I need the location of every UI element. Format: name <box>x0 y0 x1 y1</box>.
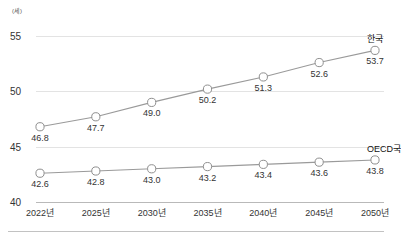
point-value-label: 49.0 <box>143 108 161 118</box>
data-point-marker <box>92 167 100 175</box>
gridline-55 <box>36 36 384 37</box>
gridline-45 <box>36 147 384 148</box>
point-value-label: 43.8 <box>366 166 384 176</box>
y-tick-label-50: 50 <box>10 86 34 97</box>
point-value-label: 43.6 <box>310 168 328 178</box>
x-tick-label-0: 2022년 <box>26 206 54 219</box>
point-value-label: 51.3 <box>255 83 273 93</box>
x-tick-label-6: 2050년 <box>361 206 389 219</box>
data-point-marker <box>371 46 379 54</box>
point-value-label: 50.2 <box>199 95 217 105</box>
point-value-label: 47.7 <box>87 123 105 133</box>
x-tick-label-4: 2040년 <box>249 206 277 219</box>
x-tick-label-2: 2030년 <box>138 206 166 219</box>
point-value-label: 42.8 <box>87 177 105 187</box>
data-point-marker <box>259 160 267 168</box>
data-point-marker <box>259 73 267 81</box>
point-value-label: 43.2 <box>199 173 217 183</box>
x-tick-label-3: 2035년 <box>193 206 221 219</box>
data-point-marker <box>148 98 156 106</box>
x-tick-label-5: 2045년 <box>305 206 333 219</box>
data-point-marker <box>315 58 323 66</box>
data-point-marker <box>371 156 379 164</box>
data-point-marker <box>36 123 44 131</box>
series-label-1: OECD국 <box>367 142 401 155</box>
series-label-0: 한국 <box>367 32 383 45</box>
y-axis-unit-label: (세) <box>12 6 22 15</box>
point-value-label: 53.7 <box>366 56 384 66</box>
point-value-label: 52.6 <box>310 69 328 79</box>
data-point-marker <box>148 165 156 173</box>
gridline-50 <box>36 91 384 92</box>
data-point-marker <box>92 113 100 121</box>
y-tick-label-45: 45 <box>10 141 34 152</box>
data-point-marker <box>203 162 211 170</box>
point-value-label: 42.6 <box>31 179 49 189</box>
data-point-marker <box>315 158 323 166</box>
x-tick-label-1: 2025년 <box>82 206 110 219</box>
point-value-label: 43.0 <box>143 175 161 185</box>
point-value-label: 46.8 <box>31 133 49 143</box>
series-line-0 <box>40 50 375 126</box>
data-point-marker <box>36 169 44 177</box>
bottom-frame-rule <box>8 231 384 232</box>
y-tick-label-55: 55 <box>10 31 34 42</box>
point-value-label: 43.4 <box>255 170 273 180</box>
gridline-40 <box>36 202 384 203</box>
